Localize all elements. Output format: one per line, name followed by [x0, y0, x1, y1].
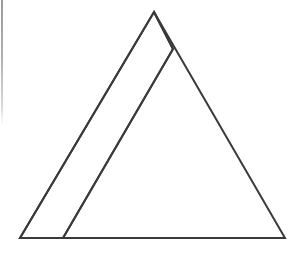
- figure-canvas: [0, 0, 303, 260]
- inner-triangle: [20, 12, 173, 238]
- outer-triangle: [20, 12, 285, 238]
- inner-diagonal-line: [63, 49, 173, 238]
- apex-to-crossing-segment: [154, 12, 173, 49]
- triangle-drawing: [0, 0, 303, 260]
